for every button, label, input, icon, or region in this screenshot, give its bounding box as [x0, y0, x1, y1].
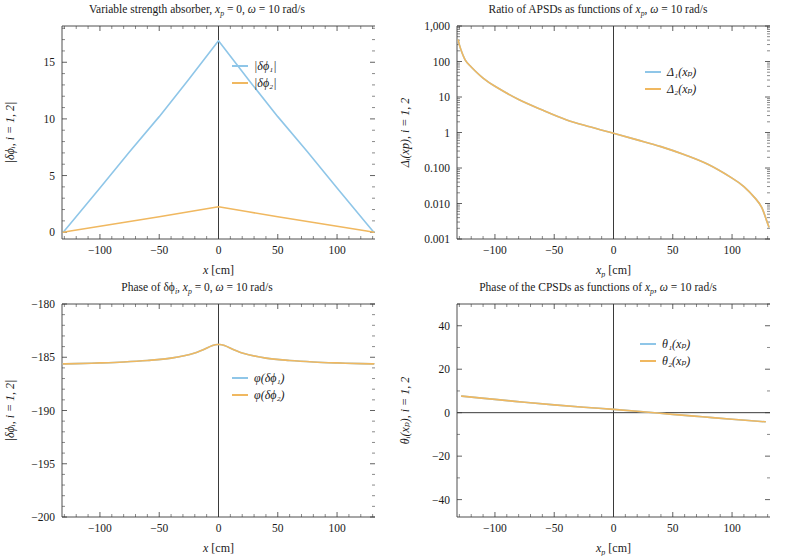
svg-text:100: 100 [433, 56, 451, 68]
legend-label-1: |δϕ₁| [254, 59, 277, 73]
svg-text:15: 15 [44, 56, 56, 68]
svg-text:50: 50 [667, 244, 679, 256]
svg-text:−185: −185 [31, 351, 55, 363]
svg-text:−100: −100 [88, 244, 112, 256]
legend-label-2: θ₂(xₚ) [662, 354, 690, 368]
svg-text:|δϕᵢ, i = 1, 2|: |δϕᵢ, i = 1, 2| [3, 380, 17, 442]
svg-text:5: 5 [49, 170, 55, 182]
svg-text:0: 0 [611, 244, 617, 256]
svg-text:−50: −50 [545, 522, 563, 534]
svg-text:Δᵢ(xp), i = 1, 2: Δᵢ(xp), i = 1, 2 [398, 98, 412, 169]
svg-text:−100: −100 [483, 244, 507, 256]
svg-text:|δϕᵢ, i = 1, 2|: |δϕᵢ, i = 1, 2| [3, 102, 17, 164]
plot-area-top-right: −100−500501001,0001001010.1000.0100.001x… [395, 0, 789, 278]
svg-text:0.100: 0.100 [424, 162, 450, 174]
svg-text:50: 50 [272, 522, 284, 534]
legend-label-2: φ(δϕ₂) [254, 388, 285, 402]
svg-text:−40: −40 [432, 494, 450, 506]
svg-text:−50: −50 [150, 522, 168, 534]
svg-text:100: 100 [328, 244, 346, 256]
svg-text:100: 100 [328, 522, 346, 534]
svg-text:−190: −190 [31, 405, 55, 417]
svg-text:0: 0 [444, 407, 450, 419]
legend-label-2: Δ₂(xₚ) [666, 82, 696, 96]
svg-text:−50: −50 [150, 244, 168, 256]
svg-text:10: 10 [439, 91, 451, 103]
legend-label-1: Δ₁(xₚ) [666, 65, 696, 79]
svg-text:100: 100 [723, 244, 741, 256]
svg-text:−50: −50 [545, 244, 563, 256]
svg-text:50: 50 [272, 244, 284, 256]
svg-text:10: 10 [44, 113, 56, 125]
svg-text:0: 0 [49, 226, 55, 238]
svg-text:x [cm]: x [cm] [202, 541, 234, 555]
plot-area-top-left: −100−50050100051015x [cm]|δϕᵢ, i = 1, 2|… [0, 0, 394, 278]
subplot-top-left: Variable strength absorber, xp = 0, ω = … [0, 0, 394, 278]
svg-text:20: 20 [439, 363, 451, 375]
plot-area-bottom-right: −100−5005010040200−20−40xp [cm]θᵢ(xₚ), i… [395, 278, 789, 556]
svg-text:x [cm]: x [cm] [202, 263, 234, 277]
svg-text:−100: −100 [88, 522, 112, 534]
svg-text:1: 1 [444, 127, 450, 139]
svg-text:40: 40 [439, 320, 451, 332]
plot-area-bottom-left: −100−50050100−180−185−190−195−200x [cm]|… [0, 278, 394, 556]
svg-text:0: 0 [611, 522, 617, 534]
figure-canvas: Variable strength absorber, xp = 0, ω = … [0, 0, 789, 556]
svg-text:−180: −180 [31, 298, 55, 310]
svg-text:1,000: 1,000 [424, 20, 450, 33]
svg-text:−195: −195 [31, 458, 55, 470]
svg-text:0: 0 [216, 522, 222, 534]
svg-text:xp [cm]: xp [cm] [595, 541, 631, 556]
svg-text:−200: −200 [31, 511, 55, 523]
legend-label-1: θ₁(xₚ) [662, 337, 690, 351]
svg-text:100: 100 [723, 522, 741, 534]
svg-text:50: 50 [667, 522, 679, 534]
subplot-bottom-left: Phase of δϕi, xp = 0, ω = 10 rad/s −100−… [0, 278, 394, 556]
svg-text:0.001: 0.001 [424, 233, 450, 245]
svg-text:θᵢ(xₚ), i = 1, 2: θᵢ(xₚ), i = 1, 2 [398, 377, 412, 444]
svg-text:xp [cm]: xp [cm] [595, 263, 631, 278]
subplot-bottom-right: Phase of the CPSDs as functions of xp, ω… [395, 278, 789, 556]
subplot-top-right: Ratio of APSDs as functions of xp, ω = 1… [395, 0, 789, 278]
svg-text:−100: −100 [483, 522, 507, 534]
svg-text:−20: −20 [432, 450, 450, 462]
legend-label-1: φ(δϕ₁) [254, 371, 285, 385]
svg-text:0: 0 [216, 244, 222, 256]
svg-text:0.010: 0.010 [424, 198, 450, 210]
legend-label-2: |δϕ₂| [254, 76, 277, 90]
